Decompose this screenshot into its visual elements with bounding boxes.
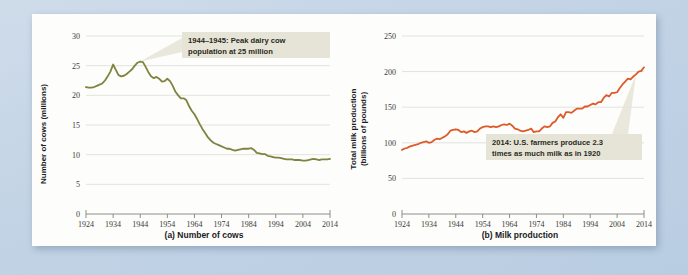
y-tick-label: 15: [72, 121, 80, 130]
callout-line: 1944–1945: Peak dairy cow: [188, 36, 286, 45]
x-tick-label: 1944: [132, 220, 148, 229]
x-tick-label: 2004: [295, 220, 311, 229]
figure-panel: 051015202530 192419341944195419641974198…: [32, 14, 656, 246]
x-tick-label: 1934: [421, 220, 437, 229]
x-tick-label: 1954: [159, 220, 175, 229]
callout-line: times as much milk as in 1920: [492, 149, 600, 158]
chart-number-of-cows: 051015202530 192419341944195419641974198…: [32, 14, 344, 246]
milk-y-axis-title-line: Total milk production: [349, 89, 358, 170]
y-tick-label: 0: [392, 210, 396, 219]
x-tick-label: 1984: [555, 220, 571, 229]
y-tick-label: 50: [388, 174, 396, 183]
cows-series-line: [86, 62, 330, 161]
milk-x-tick-labels: 1924193419441954196419741984199420042014: [394, 220, 652, 229]
y-tick-label: 100: [384, 139, 396, 148]
y-tick-label: 25: [72, 62, 80, 71]
x-tick-label: 2014: [636, 220, 652, 229]
y-tick-label: 10: [72, 151, 80, 160]
milk-caption: (b) Milk production: [482, 230, 559, 240]
cows-gridlines: [86, 36, 330, 184]
x-tick-label: 1994: [268, 220, 284, 229]
x-tick-label: 1984: [241, 220, 257, 229]
x-tick-label: 1934: [105, 220, 121, 229]
x-tick-label: 1974: [528, 220, 544, 229]
x-tick-label: 1954: [475, 220, 491, 229]
x-tick-label: 2014: [322, 220, 338, 229]
y-tick-label: 150: [384, 103, 396, 112]
milk-y-tick-labels: 050100150200250: [384, 32, 396, 219]
milk-y-axis-title: Total milk production(billions of pounds…: [349, 89, 368, 170]
x-tick-label: 1944: [448, 220, 464, 229]
x-tick-label: 1924: [394, 220, 410, 229]
cows-y-tick-labels: 051015202530: [72, 32, 80, 219]
cows-caption: (a) Number of cows: [165, 230, 244, 240]
milk-plot-svg: 050100150200250 192419341944195419641974…: [344, 14, 656, 246]
cows-y-axis-title: Number of cows (millions): [39, 84, 48, 184]
milk-axis: [402, 210, 644, 218]
y-tick-label: 250: [384, 32, 396, 41]
milk-y-axis-title-line: (billions of pounds): [359, 92, 368, 167]
chart-milk-production: 050100150200250 192419341944195419641974…: [344, 14, 656, 246]
y-tick-label: 20: [72, 91, 80, 100]
x-tick-label: 1974: [214, 220, 230, 229]
x-tick-label: 1924: [78, 220, 94, 229]
callout-leader: [140, 38, 182, 62]
cows-plot-svg: 051015202530 192419341944195419641974198…: [32, 14, 344, 246]
y-tick-label: 30: [72, 32, 80, 41]
x-tick-label: 2004: [609, 220, 625, 229]
x-tick-label: 1994: [582, 220, 598, 229]
x-tick-label: 1964: [502, 220, 518, 229]
x-tick-label: 1964: [186, 220, 202, 229]
y-tick-label: 0: [76, 210, 80, 219]
cows-x-tick-labels: 1924193419441954196419741984199420042014: [78, 220, 338, 229]
cows-axis: [86, 210, 330, 218]
y-tick-label: 5: [76, 180, 80, 189]
callout-line: 2014: U.S. farmers produce 2.3: [492, 138, 603, 147]
y-tick-label: 200: [384, 68, 396, 77]
callout-line: population at 25 million: [188, 47, 273, 56]
